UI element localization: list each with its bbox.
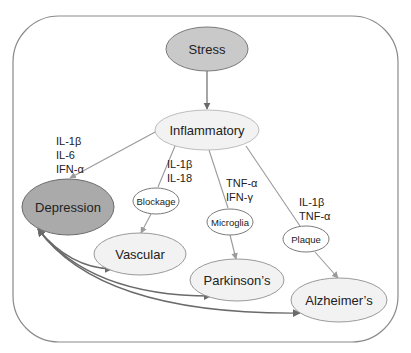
node-plaque: Plaque <box>283 226 329 252</box>
node-vascular-label: Vascular <box>115 247 165 262</box>
node-parkinsons-label: Parkinson’s <box>204 273 271 288</box>
node-microglia: Microglia <box>207 209 253 235</box>
stress-inflammation-diagram: Stress Inflammatory Depression Blockage … <box>0 0 411 353</box>
node-depression-label: Depression <box>35 200 101 215</box>
node-alzheimers: Alzheimer’s <box>291 278 387 322</box>
node-inflammatory: Inflammatory <box>155 110 259 150</box>
cytokine-label: IL-1β <box>299 196 324 208</box>
node-plaque-label: Plaque <box>291 234 321 245</box>
cytokine-label: IL-1β <box>56 135 81 147</box>
node-vascular: Vascular <box>94 233 186 275</box>
node-blockage: Blockage <box>133 188 179 214</box>
node-blockage-label: Blockage <box>136 196 175 207</box>
node-alzheimers-label: Alzheimer’s <box>305 293 373 308</box>
cytokine-label: IFN-α <box>56 163 84 175</box>
node-stress: Stress <box>166 27 248 71</box>
node-inflammatory-label: Inflammatory <box>169 123 245 138</box>
node-depression: Depression <box>22 179 114 235</box>
node-parkinsons: Parkinson’s <box>190 259 284 301</box>
cytokine-label: IL-1β <box>167 158 192 170</box>
cytokine-label: TNF-α <box>299 210 331 222</box>
cytokine-label: IFN-γ <box>226 191 253 203</box>
cytokine-label: TNF-α <box>226 177 258 189</box>
node-stress-label: Stress <box>189 42 226 57</box>
cytokine-label: IL-18 <box>167 172 192 184</box>
node-microglia-label: Microglia <box>211 217 250 228</box>
cytokine-label: IL-6 <box>56 149 75 161</box>
